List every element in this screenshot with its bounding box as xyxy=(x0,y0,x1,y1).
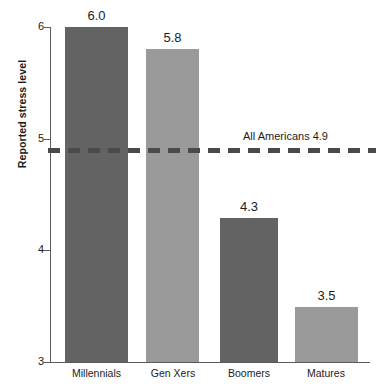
bar-value-gen-xers: 5.8 xyxy=(146,31,199,44)
x-axis-label-matures: Matures xyxy=(293,367,359,379)
bar-matures xyxy=(295,307,358,362)
bar-value-millennials: 6.0 xyxy=(65,9,128,22)
bar-chart: Reported stress level 6 5 4 3 6.0 Millen… xyxy=(0,0,376,387)
bar-value-matures: 3.5 xyxy=(295,289,358,302)
x-axis-label-boomers: Boomers xyxy=(216,367,282,379)
all-americans-reference-label: All Americans 4.9 xyxy=(243,130,328,142)
bar-value-boomers: 4.3 xyxy=(220,200,278,213)
x-axis-label-millennials: Millennials xyxy=(61,367,132,379)
x-axis-label-gen-xers: Gen Xers xyxy=(140,367,206,379)
bar-millennials xyxy=(65,27,128,362)
bar-gen-xers xyxy=(146,49,199,362)
bar-boomers xyxy=(220,218,278,362)
plot-area: 6.0 Millennials 5.8 Gen Xers 4.3 Boomers… xyxy=(0,0,376,387)
all-americans-reference-line xyxy=(48,148,376,153)
